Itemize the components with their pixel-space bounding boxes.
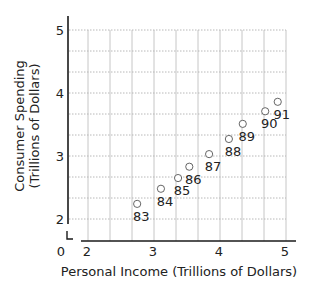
data-point: 89 [238, 120, 255, 144]
point-label: 89 [238, 129, 255, 144]
scatter-chart: 2345 2345 0 Personal Income (Trillions o… [0, 0, 323, 293]
y-axis-title-line-1: Consumer Spending [12, 60, 27, 192]
circle-marker-icon [186, 163, 193, 170]
y-tick-label: 3 [56, 149, 64, 164]
y-axis-title-line-2: (Trillions of Dollars) [27, 64, 42, 189]
point-label: 87 [205, 159, 222, 174]
circle-marker-icon [239, 120, 246, 127]
circle-marker-icon [206, 151, 213, 158]
point-label: 83 [133, 209, 150, 224]
point-label: 86 [185, 172, 202, 187]
y-tick-label: 2 [56, 212, 64, 227]
circle-marker-icon [262, 108, 269, 115]
point-label: 88 [225, 144, 242, 159]
x-tick-labels: 2345 [83, 244, 289, 259]
origin-label: 0 [57, 244, 65, 259]
y-tick-label: 5 [56, 23, 64, 38]
data-point: 84 [157, 185, 174, 209]
data-point: 83 [133, 200, 150, 224]
data-point: 87 [205, 151, 222, 175]
x-axis-title: Personal Income (Trillions of Dollars) [61, 264, 297, 279]
data-point: 86 [185, 163, 202, 187]
data-point: 91 [273, 98, 290, 122]
y-tick-labels: 2345 [56, 23, 64, 227]
circle-marker-icon [134, 200, 141, 207]
axis-break-mark [67, 231, 73, 239]
x-tick-label: 4 [215, 244, 223, 259]
circle-marker-icon [274, 98, 281, 105]
x-tick-label: 5 [281, 244, 289, 259]
circle-marker-icon [157, 185, 164, 192]
y-axis-title: Consumer Spending (Trillions of Dollars) [12, 60, 42, 192]
data-points: 838485868788899091 [133, 98, 290, 224]
point-label: 84 [157, 194, 174, 209]
circle-marker-icon [174, 174, 181, 181]
circle-marker-icon [225, 135, 232, 142]
point-label: 91 [273, 107, 290, 122]
x-tick-label: 2 [83, 244, 91, 259]
y-tick-label: 4 [56, 86, 64, 101]
x-tick-label: 3 [149, 244, 157, 259]
